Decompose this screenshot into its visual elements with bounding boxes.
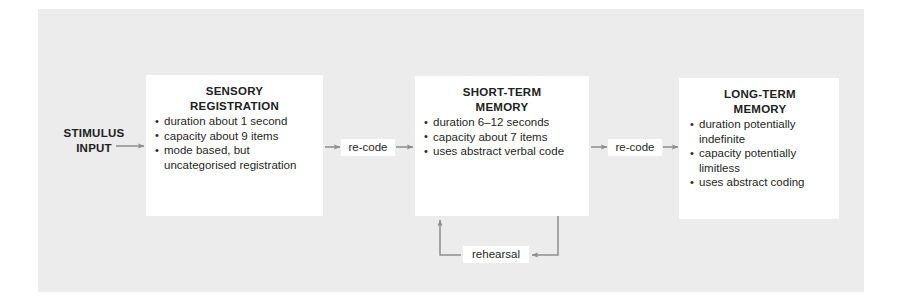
connector-label-recode-1: re-code — [341, 139, 395, 156]
stimulus-input-label: STIMULUS INPUT — [48, 126, 140, 155]
bullet-item: duration potentially indefinite — [690, 117, 830, 146]
node-long-term-memory[interactable]: LONG-TERM MEMORY duration potentially in… — [679, 78, 839, 219]
bullet-item: capacity about 9 items — [155, 129, 314, 144]
connector-label-rehearsal: rehearsal — [463, 246, 529, 263]
node-bullets-sensory-registration: duration about 1 second capacity about 9… — [155, 114, 314, 172]
node-bullets-long-term-memory: duration potentially indefinite capacity… — [690, 117, 830, 190]
node-sensory-registration[interactable]: SENSORY REGISTRATION duration about 1 se… — [146, 75, 323, 216]
node-title-long-term-memory: LONG-TERM MEMORY — [690, 87, 830, 116]
bullet-item: uses abstract verbal code — [424, 144, 580, 159]
node-title-short-term-memory: SHORT-TERM MEMORY — [424, 85, 580, 114]
connector-label-recode-2: re-code — [608, 139, 662, 156]
node-bullets-short-term-memory: duration 6–12 seconds capacity about 7 i… — [424, 115, 580, 159]
bullet-item: mode based, but uncategorised registrati… — [155, 143, 314, 172]
bullet-item: uses abstract coding — [690, 175, 830, 190]
node-title-sensory-registration: SENSORY REGISTRATION — [155, 84, 314, 113]
bullet-item: capacity potentially limitless — [690, 146, 830, 175]
node-short-term-memory[interactable]: SHORT-TERM MEMORY duration 6–12 seconds … — [415, 76, 589, 216]
bullet-item: duration 6–12 seconds — [424, 115, 580, 130]
diagram-canvas: STIMULUS INPUT SENSORY REGISTRATION dura… — [0, 0, 903, 304]
bullet-item: duration about 1 second — [155, 114, 314, 129]
bullet-item: capacity about 7 items — [424, 130, 580, 145]
